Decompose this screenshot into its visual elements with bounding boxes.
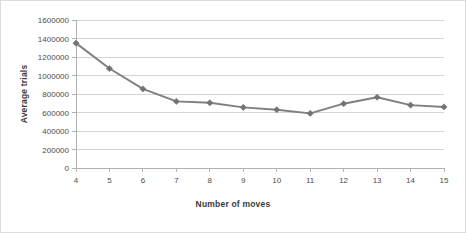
data-point-marker [374, 94, 380, 100]
y-tick-label: 400000 [42, 127, 69, 136]
x-tick-label: 15 [440, 176, 449, 185]
x-tick-label: 5 [107, 176, 112, 185]
data-point-marker [341, 101, 347, 107]
y-tick-label: 1200000 [38, 53, 70, 62]
y-tick-label: 600000 [42, 109, 69, 118]
data-series [73, 40, 447, 117]
x-tick-label: 10 [272, 176, 281, 185]
x-tick-label: 9 [241, 176, 246, 185]
data-point-marker [207, 100, 213, 106]
y-tick-label: 200000 [42, 146, 69, 155]
series-line [76, 43, 444, 113]
x-tick-label: 11 [306, 176, 315, 185]
x-tick-label: 7 [174, 176, 179, 185]
chart-container: Average trials 0200000400000600000800000… [0, 0, 466, 233]
x-axis-tick-labels: 456789101112131415 [74, 176, 449, 185]
data-point-marker [240, 104, 246, 110]
x-axis-title-label: Number of moves [196, 199, 271, 209]
data-point-marker [307, 110, 313, 116]
data-point-marker [274, 107, 280, 113]
x-tick-label: 14 [406, 176, 415, 185]
x-tick-label: 8 [208, 176, 213, 185]
y-tick-label: 1400000 [38, 35, 70, 44]
x-tick-label: 13 [373, 176, 382, 185]
gridlines [76, 20, 444, 150]
y-tick-label: 1000000 [38, 72, 70, 81]
data-point-marker [441, 104, 447, 110]
y-tick-label: 1600000 [38, 16, 70, 25]
y-tick-label: 800000 [42, 90, 69, 99]
y-tick-label: 0 [65, 164, 70, 173]
data-point-marker [407, 102, 413, 108]
data-point-marker [173, 98, 179, 104]
x-tick-label: 12 [339, 176, 348, 185]
x-tick-label: 4 [74, 176, 79, 185]
y-axis-tick-labels: 0200000400000600000800000100000012000001… [38, 16, 70, 173]
x-axis-title: Number of moves [1, 199, 465, 209]
x-tick-label: 6 [141, 176, 146, 185]
